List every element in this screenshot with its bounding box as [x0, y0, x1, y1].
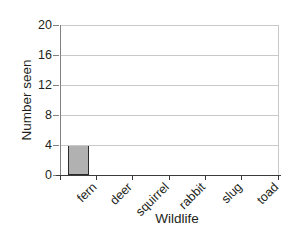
- gridline-y20: [60, 25, 278, 26]
- y-tick-4: [53, 145, 59, 146]
- x-category-label-fern: fern: [74, 180, 99, 205]
- gridline-y12: [60, 85, 278, 86]
- y-axis-line: [60, 25, 61, 175]
- plot-area: [60, 25, 278, 175]
- wildlife-bar-chart: Number seen 048121620 ferndeersquirrelra…: [0, 0, 297, 241]
- y-tick-20: [53, 25, 59, 26]
- bar-fern: [68, 145, 89, 175]
- y-tick-label-0: 0: [22, 168, 52, 183]
- x-category-label-toad: toad: [254, 180, 281, 207]
- plot-right-border: [278, 25, 279, 175]
- gridline-y4: [60, 145, 278, 146]
- y-tick-label-16: 16: [22, 48, 52, 63]
- x-category-label-slug: slug: [218, 180, 244, 206]
- y-axis-label: Number seen: [19, 59, 34, 140]
- gridline-y8: [60, 115, 278, 116]
- y-tick-8: [53, 115, 59, 116]
- y-tick-16: [53, 55, 59, 56]
- x-category-label-rabbit: rabbit: [176, 180, 208, 212]
- y-tick-12: [53, 85, 59, 86]
- y-tick-label-4: 4: [22, 138, 52, 153]
- x-category-label-deer: deer: [108, 180, 136, 208]
- x-axis-label: Wildlife: [68, 211, 286, 226]
- y-tick-label-12: 12: [22, 78, 52, 93]
- gridline-y16: [60, 55, 278, 56]
- y-tick-label-20: 20: [22, 18, 52, 33]
- y-tick-label-8: 8: [22, 108, 52, 123]
- x-axis-line: [56, 175, 281, 177]
